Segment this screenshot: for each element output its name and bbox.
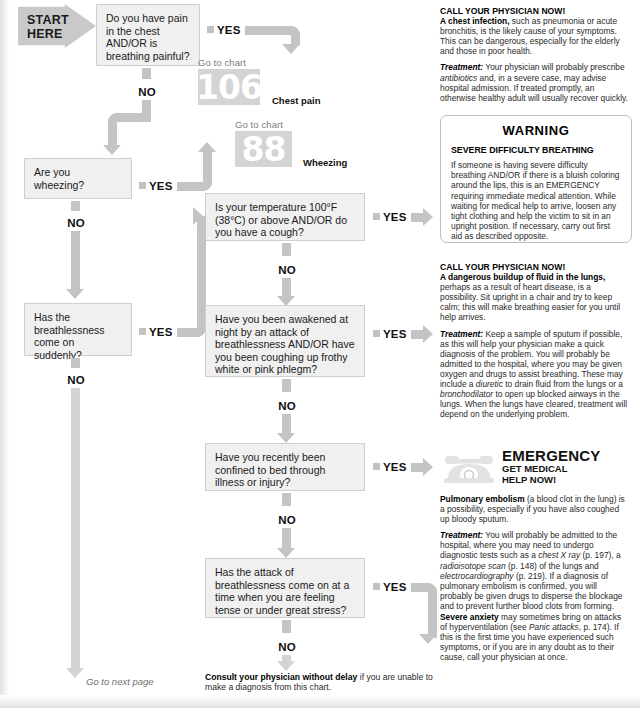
warning-title: WARNING xyxy=(451,123,621,138)
treatment-emphasis-ecg: electrocardiography xyxy=(440,571,514,581)
flowchart-page: START HERE Do you have pain in the chest… xyxy=(0,0,640,708)
question-box-night-awakening[interactable]: Have you been awakened at night by an at… xyxy=(205,305,365,377)
connector-q7-no-stub xyxy=(282,620,291,633)
page-bottom-edge xyxy=(0,696,640,708)
advice-fluid-lungs: CALL YOUR PHYSICIAN NOW! A dangerous bui… xyxy=(440,262,630,425)
connector-q5-no-v xyxy=(282,414,291,435)
connector-q1-no-v2 xyxy=(108,122,117,147)
question-box-temperature[interactable]: Is your temperature 100°F (38°C) or abov… xyxy=(205,193,365,241)
no-label-q5: NO xyxy=(272,400,302,412)
emergency-header: EMERGENCY GET MEDICAL HELP NOW! xyxy=(442,448,632,492)
telephone-icon xyxy=(442,448,496,488)
advice-embolism-treatment: Treatment: You will probably be admitted… xyxy=(440,530,630,611)
advice-lead-4: Severe anxiety xyxy=(440,612,499,622)
advice-emphasis-panic: Panic attacks xyxy=(529,622,579,632)
go-to-chart-label-106: Go to chart xyxy=(198,57,246,68)
advice-lead: A chest infection, xyxy=(440,16,510,26)
start-label-line2: HERE xyxy=(27,27,69,41)
yes-tick-icon-q4 xyxy=(139,328,146,335)
yes-label-q1: YES xyxy=(207,24,241,36)
consult-lead: Consult your physician without delay xyxy=(205,672,357,682)
yes-label-q6: YES xyxy=(373,461,407,473)
page-left-edge xyxy=(0,0,9,695)
treatment-emphasis-scan: radioisotope scan xyxy=(440,561,506,571)
yes-text-q7: YES xyxy=(383,581,407,593)
no-label-q7: NO xyxy=(272,641,302,653)
arrowhead-q7-yes xyxy=(419,634,437,644)
advice-chest-infection-body: CALL YOUR PHYSICIAN NOW! A chest infecti… xyxy=(440,6,630,56)
connector-q2-yes-elbow xyxy=(192,152,212,191)
treatment-text-2b: to drain fluid from the lungs or a xyxy=(503,379,623,389)
arrowhead-q7-no xyxy=(277,661,295,671)
arrowhead-q6-yes xyxy=(423,458,433,476)
treatment-emphasis-diuretic: diuretic xyxy=(476,379,503,389)
treatment-text-a: Your physician will probably prescribe xyxy=(483,62,625,72)
go-to-next-page-label[interactable]: Go to next page xyxy=(86,676,154,687)
advice-lead-2: A dangerous buildup of fluid in the lung… xyxy=(440,272,605,282)
yes-tick-icon-q5 xyxy=(373,330,380,337)
yes-text-q5: YES xyxy=(383,328,407,340)
yes-tick-icon xyxy=(207,26,214,33)
treatment-emphasis-bronchodilator: bronchodilator xyxy=(440,389,493,399)
advice-anxiety-body: Severe anxiety may sometimes bring on at… xyxy=(440,612,630,662)
advice-severe-anxiety: Severe anxiety may sometimes bring on at… xyxy=(440,612,630,668)
connector-q1-yes-elbow xyxy=(282,26,300,46)
question-box-chest-pain[interactable]: Do you have pain in the chest AND/OR is … xyxy=(96,4,200,66)
advice-chest-infection-treatment: Treatment: Your physician will probably … xyxy=(440,62,630,102)
consult-physician-note: Consult your physician without delay if … xyxy=(205,672,455,693)
emergency-title: EMERGENCY xyxy=(502,447,600,464)
advice-embolism-body: Pulmonary embolism (a blood clot in the … xyxy=(440,494,630,524)
yes-label-q5: YES xyxy=(373,328,407,340)
yes-text: YES xyxy=(217,24,241,36)
connector-q4-no-long xyxy=(71,388,80,670)
question-box-confined-to-bed[interactable]: Have you recently been confined to bed t… xyxy=(205,443,365,491)
arrowhead-q5-no xyxy=(277,433,295,443)
arrowhead-q1-yes xyxy=(282,44,300,54)
advice-fluid-lungs-treatment: Treatment: Keep a sample of sputum if po… xyxy=(440,329,630,420)
no-label-q1: NO xyxy=(132,86,162,98)
yes-text-q4: YES xyxy=(149,326,173,338)
connector-q6-no-v xyxy=(282,528,291,550)
connector-q4-no-stub xyxy=(71,358,80,368)
question-box-stress[interactable]: Has the attack of breathlessness come on… xyxy=(205,558,365,618)
advice-body-2: perhaps as a result of heart disease, is… xyxy=(440,282,620,322)
yes-text-q6: YES xyxy=(383,461,407,473)
chart-number-88[interactable]: 88 xyxy=(235,131,292,167)
go-to-chart-label-88: Go to chart xyxy=(235,119,283,130)
treatment-label-2: Treatment: xyxy=(440,329,483,339)
no-label-q4: NO xyxy=(61,374,91,386)
no-label-q3: NO xyxy=(272,264,302,276)
advice-chest-infection: CALL YOUR PHYSICIAN NOW! A chest infecti… xyxy=(440,6,630,109)
arrowhead-q3-yes xyxy=(423,208,433,226)
treatment-text-3b: (p. 197), a xyxy=(580,550,621,560)
arrowhead-q6-no xyxy=(277,548,295,558)
connector-q3-no-stub xyxy=(282,243,291,256)
connector-q4-yes-elbow xyxy=(186,216,206,337)
connector-q2-no-v xyxy=(71,231,80,291)
connector-q2-no-stub xyxy=(71,201,80,211)
chart-label-chest-pain: Chest pain xyxy=(272,95,321,106)
yes-tick-icon-q3 xyxy=(373,213,380,220)
no-label-q6: NO xyxy=(272,514,302,526)
question-box-wheezing[interactable]: Are you wheezing? xyxy=(24,158,132,199)
yes-label-q3: YES xyxy=(373,211,407,223)
warning-subtitle: SEVERE DIFFICULTY BREATHING xyxy=(451,145,621,155)
connector-q1-no-stub xyxy=(142,68,151,79)
start-label-line1: START xyxy=(27,13,69,27)
chart-number-106[interactable]: 106 xyxy=(198,69,260,105)
question-box-sudden-breathlessness[interactable]: Has the breathlessness come on suddenly? xyxy=(24,303,132,356)
treatment-emphasis: antibiotics xyxy=(440,73,477,83)
arrowhead-q2-yes xyxy=(198,142,216,152)
chart-label-wheezing: Wheezing xyxy=(303,157,347,168)
arrowhead-q5-yes xyxy=(423,325,433,343)
warning-box: WARNING SEVERE DIFFICULTY BREATHING If s… xyxy=(440,115,632,243)
yes-text-q2: YES xyxy=(149,180,173,192)
connector-q5-no-stub xyxy=(282,379,291,392)
start-here-arrow: START HERE xyxy=(18,4,96,48)
yes-label-q4: YES xyxy=(139,326,173,338)
advice-heading-2: CALL YOUR PHYSICIAN NOW! xyxy=(440,262,565,272)
arrowhead-q2-no xyxy=(66,289,84,299)
treatment-label: Treatment: xyxy=(440,62,483,72)
start-arrow-label: START HERE xyxy=(27,13,69,41)
arrowhead-q1-no xyxy=(103,145,121,155)
